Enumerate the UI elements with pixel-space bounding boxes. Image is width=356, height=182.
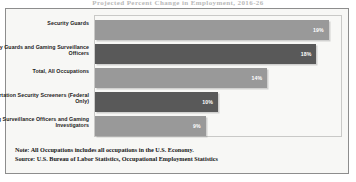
bar-row: Security Guards 19% bbox=[95, 20, 341, 40]
chart-plot-area: Security Guards 19% Security Guards and … bbox=[94, 15, 342, 137]
bar-value-label: 18% bbox=[301, 51, 312, 57]
footnote-note: Note: All Occupations includes all occup… bbox=[15, 145, 335, 154]
category-label: Total, All Occupations bbox=[0, 68, 89, 74]
bar-row: Transportation Security Screeners (Feder… bbox=[95, 92, 341, 112]
bar-row: Security Guards and Gaming Surveillance … bbox=[95, 44, 341, 64]
category-label: Security Guards and Gaming Surveillance … bbox=[0, 44, 89, 57]
bar-transportation-security-screeners: 10% bbox=[95, 92, 218, 112]
category-label: Gaming Surveillance Officers and Gaming … bbox=[0, 116, 89, 129]
bar-value-label: 19% bbox=[313, 27, 324, 33]
bar-total-all-occupations: 14% bbox=[95, 68, 267, 88]
chart-footnotes: Note: All Occupations includes all occup… bbox=[15, 145, 335, 163]
clipped-chart-title: Projected Percent Change in Employment, … bbox=[0, 0, 356, 7]
category-label: Transportation Security Screeners (Feder… bbox=[0, 92, 89, 105]
bar-value-label: 9% bbox=[193, 123, 201, 129]
bar-security-guards: 19% bbox=[95, 20, 329, 40]
chart-figure-frame: Security Guards 19% Security Guards and … bbox=[5, 8, 349, 174]
category-label: Security Guards bbox=[0, 20, 89, 26]
bar-gaming-surveillance-officers-and-gaming-investigators: 9% bbox=[95, 116, 206, 136]
bar-security-guards-and-gaming-surveillance-officers: 18% bbox=[95, 44, 316, 64]
bar-row: Total, All Occupations 14% bbox=[95, 68, 341, 88]
bar-value-label: 14% bbox=[252, 75, 263, 81]
bar-value-label: 10% bbox=[202, 99, 213, 105]
footnote-source: Source: U.S. Bureau of Labor Statistics,… bbox=[15, 154, 335, 163]
bar-row: Gaming Surveillance Officers and Gaming … bbox=[95, 116, 341, 136]
